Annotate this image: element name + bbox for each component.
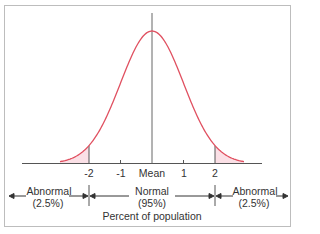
tick-label-minus1: -1 [116,167,125,179]
center-region-percent: (95%) [138,197,166,209]
center-region-label: Normal [135,185,169,197]
left-region-label: Abnormal [27,185,72,197]
tick-label-minus2: -2 [84,167,93,179]
right-region-label: Abnormal [233,185,278,197]
right-region-percent: (2.5%) [239,197,270,209]
tick-label-plus2: 2 [212,167,218,179]
tick-label-plus1: 1 [181,167,187,179]
tick-label-mean: Mean [139,167,165,179]
x-axis-label: Percent of population [102,210,201,222]
left-region-percent: (2.5%) [33,197,64,209]
